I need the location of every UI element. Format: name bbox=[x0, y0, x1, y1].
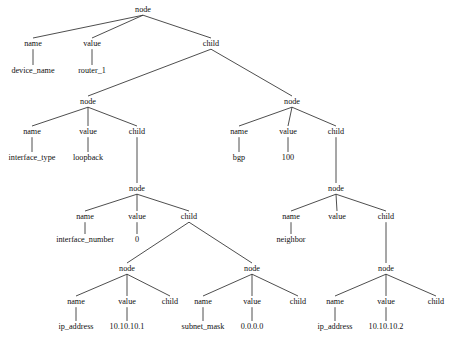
tree-label-field: value bbox=[243, 297, 261, 306]
tree-label-field: child bbox=[328, 127, 344, 136]
tree-label-leaf: 100 bbox=[282, 153, 294, 162]
tree-label-leaf: neighbor bbox=[276, 235, 305, 244]
tree-label-leaf: device_name bbox=[11, 66, 55, 75]
tree-edge bbox=[336, 194, 386, 211]
tree-label-field: name bbox=[230, 127, 248, 136]
tree-label-field: value bbox=[128, 212, 146, 221]
tree-label-field: name bbox=[282, 212, 300, 221]
tree-edge bbox=[291, 194, 336, 211]
tree-edge bbox=[143, 15, 211, 38]
tree-label-node: node bbox=[80, 97, 96, 106]
tree-label-leaf: ip_address bbox=[58, 322, 93, 331]
node-layer: nodenamevaluechilddevice_namerouter_1nod… bbox=[9, 5, 445, 331]
tree-label-field: child bbox=[162, 297, 178, 306]
tree-edge bbox=[88, 107, 137, 126]
tree-edge bbox=[92, 15, 143, 38]
tree-label-leaf: router_1 bbox=[78, 66, 106, 75]
tree-label-field: child bbox=[181, 212, 197, 221]
tree-label-node: node bbox=[284, 97, 300, 106]
tree-label-leaf: loopback bbox=[73, 153, 104, 162]
tree-label-field: child bbox=[378, 212, 394, 221]
tree-label-leaf: ip_address bbox=[317, 322, 352, 331]
tree-label-leaf: 10.10.10.2 bbox=[369, 322, 404, 331]
tree-edge bbox=[239, 107, 292, 126]
tree-label-field: name bbox=[23, 127, 41, 136]
tree-label-field: value bbox=[377, 297, 395, 306]
tree-edge bbox=[33, 15, 143, 38]
tree-edge bbox=[76, 274, 127, 296]
tree-label-field: name bbox=[76, 212, 94, 221]
tree-edge bbox=[88, 49, 211, 96]
tree-edge bbox=[288, 107, 292, 126]
tree-label-node: node bbox=[378, 264, 394, 273]
tree-label-field: value bbox=[83, 39, 101, 48]
tree-edge bbox=[211, 49, 292, 96]
tree-edge bbox=[203, 274, 252, 296]
tree-label-node: node bbox=[135, 5, 151, 14]
tree-label-field: child bbox=[428, 297, 444, 306]
tree-label-field: value bbox=[328, 212, 346, 221]
tree-label-leaf: 0 bbox=[135, 235, 139, 244]
tree-edge bbox=[292, 107, 336, 126]
tree-label-node: node bbox=[129, 184, 145, 193]
tree-edge bbox=[335, 274, 386, 296]
tree-edge bbox=[189, 222, 252, 263]
tree-label-leaf: interface_type bbox=[9, 153, 56, 162]
tree-label-leaf: bgp bbox=[233, 153, 245, 162]
tree-diagram: nodenamevaluechilddevice_namerouter_1nod… bbox=[0, 0, 456, 346]
tree-label-field: child bbox=[290, 297, 306, 306]
tree-label-field: value bbox=[79, 127, 97, 136]
tree-edge bbox=[85, 194, 137, 211]
tree-label-leaf: 10.10.10.1 bbox=[110, 322, 145, 331]
tree-label-field: name bbox=[67, 297, 85, 306]
tree-label-node: node bbox=[119, 264, 135, 273]
tree-label-field: name bbox=[194, 297, 212, 306]
tree-label-leaf: 0.0.0.0 bbox=[241, 322, 264, 331]
tree-label-leaf: interface_number bbox=[56, 235, 114, 244]
edge-layer bbox=[32, 15, 436, 321]
tree-edge bbox=[386, 274, 436, 296]
tree-label-field: value bbox=[118, 297, 136, 306]
tree-label-field: child bbox=[203, 39, 219, 48]
tree-label-field: child bbox=[129, 127, 145, 136]
tree-label-field: value bbox=[279, 127, 297, 136]
tree-label-node: node bbox=[328, 184, 344, 193]
tree-edge bbox=[252, 274, 298, 296]
tree-edge bbox=[137, 194, 189, 211]
tree-edge bbox=[32, 107, 88, 126]
tree-edge bbox=[127, 274, 170, 296]
tree-label-node: node bbox=[244, 264, 260, 273]
tree-label-field: name bbox=[24, 39, 42, 48]
tree-label-leaf: subnet_mask bbox=[182, 322, 226, 331]
tree-label-field: name bbox=[326, 297, 344, 306]
tree-edge bbox=[336, 194, 337, 211]
